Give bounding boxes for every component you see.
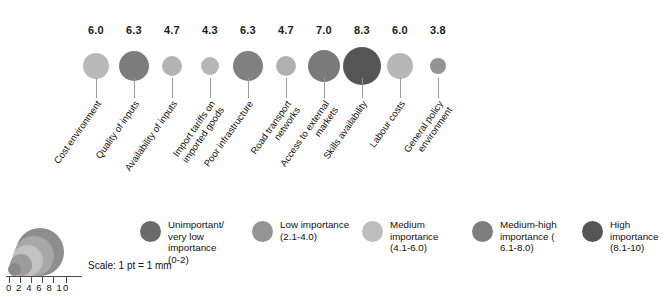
bubble-stem-2 xyxy=(172,78,173,98)
bubble-column-1[interactable]: 6.3 Quality of inputs xyxy=(115,0,153,215)
bubble-2[interactable] xyxy=(162,56,182,76)
bubble-value-1: 6.3 xyxy=(115,24,153,36)
legend-label-medium-high: Medium-high importance ( 6.1-8.0) xyxy=(500,219,557,254)
legend-swatch-medium xyxy=(362,221,383,242)
legend-item-medium[interactable]: Medium importance (4.1-6.0) xyxy=(362,219,462,291)
bubble-stem-8 xyxy=(400,78,401,98)
bubble-stem-4 xyxy=(248,78,249,98)
bubble-value-8: 6.0 xyxy=(381,24,419,36)
bubble-column-5[interactable]: 4.7 Road transport networks xyxy=(267,0,305,215)
scale-axis-line xyxy=(6,276,82,277)
bubble-value-4: 6.3 xyxy=(229,24,267,36)
bubble-column-3[interactable]: 4.3 Import tariffs on imported goods xyxy=(191,0,229,215)
bubble-9[interactable] xyxy=(430,58,446,74)
bubble-value-6: 7.0 xyxy=(305,24,343,36)
bubble-stem-7 xyxy=(362,78,363,98)
legend-item-high[interactable]: High importance (8.1-10) xyxy=(582,219,672,291)
legend-swatch-medium-high xyxy=(472,221,493,242)
scale-key: 0 2 4 6 8 10 Scale: 1 pt = 1 mm xyxy=(6,221,136,293)
bubble-4[interactable] xyxy=(233,51,263,81)
legend-label-low: Low importance (2.1-4.0) xyxy=(280,219,349,242)
bubble-0[interactable] xyxy=(83,53,109,79)
bubble-column-6[interactable]: 7.0 Access to external markets xyxy=(305,0,343,215)
bubble-3[interactable] xyxy=(201,57,219,75)
bubble-stem-6 xyxy=(324,78,325,98)
bubble-chart: 6.0 Cost environment 6.3 Quality of inpu… xyxy=(0,0,672,215)
legend-swatch-high xyxy=(582,221,603,242)
scale-tick-labels: 0 2 4 6 8 10 xyxy=(6,282,96,293)
bubble-value-0: 6.0 xyxy=(77,24,115,36)
chart-legend: 0 2 4 6 8 10 Scale: 1 pt = 1 mm Unimport… xyxy=(0,215,672,297)
bubble-stem-1 xyxy=(134,78,135,98)
bubble-column-9[interactable]: 3.8 General policy environment xyxy=(419,0,457,215)
bubble-value-9: 3.8 xyxy=(419,24,457,36)
bubble-stem-0 xyxy=(96,78,97,98)
bubble-value-2: 4.7 xyxy=(153,24,191,36)
legend-item-low[interactable]: Low importance (2.1-4.0) xyxy=(252,219,352,291)
bubble-column-7[interactable]: 8.3 Skills availability xyxy=(343,0,381,215)
legend-label-unimportant: Unimportant/ very low importance (0-2) xyxy=(168,219,224,265)
bubble-value-3: 4.3 xyxy=(191,24,229,36)
bubble-value-5: 4.7 xyxy=(267,24,305,36)
bubble-stem-5 xyxy=(286,78,287,98)
legend-item-medium-high[interactable]: Medium-high importance ( 6.1-8.0) xyxy=(472,219,572,291)
legend-swatch-low xyxy=(252,221,273,242)
bubble-value-7: 8.3 xyxy=(343,24,381,36)
legend-item-unimportant[interactable]: Unimportant/ very low importance (0-2) xyxy=(140,219,250,291)
bubble-column-0[interactable]: 6.0 Cost environment xyxy=(77,0,115,215)
bubble-5[interactable] xyxy=(276,56,296,76)
legend-swatch-unimportant xyxy=(140,221,161,242)
scale-bubble-2 xyxy=(8,263,21,276)
scale-bubble-stack xyxy=(6,220,78,276)
bubble-stem-3 xyxy=(210,78,211,98)
legend-label-medium: Medium importance (4.1-6.0) xyxy=(390,219,438,254)
bubble-1[interactable] xyxy=(119,51,149,81)
legend-label-high: High importance (8.1-10) xyxy=(610,219,672,254)
bubble-stem-9 xyxy=(438,78,439,98)
bubble-8[interactable] xyxy=(387,53,413,79)
bubble-column-8[interactable]: 6.0 Labour costs xyxy=(381,0,419,215)
bubble-column-2[interactable]: 4.7 Availability of inputs xyxy=(153,0,191,215)
bubble-column-4[interactable]: 6.3 Poor infrastructure xyxy=(229,0,267,215)
